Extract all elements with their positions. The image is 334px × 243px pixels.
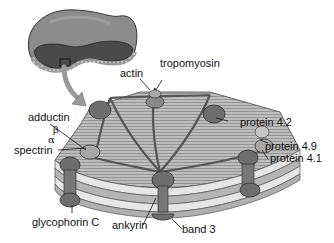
label-spectrin: spectrin xyxy=(14,145,53,156)
red-blood-cell-icon xyxy=(28,10,136,71)
label-protein-4-1: protein 4.1 xyxy=(270,153,322,164)
label-glycophorin-c: glycophorin C xyxy=(32,217,99,228)
label-tropomyosin: tropomyosin xyxy=(160,58,220,69)
label-protein-4-9: protein 4.9 xyxy=(265,141,317,152)
label-ankyrin: ankyrin xyxy=(112,220,147,231)
label-actin: actin xyxy=(120,68,143,79)
label-adductin: adductin xyxy=(28,112,70,123)
label-protein-4-2: protein 4.2 xyxy=(240,117,292,128)
label-band-3: band 3 xyxy=(182,224,216,235)
zoom-arrow-icon xyxy=(64,67,86,106)
